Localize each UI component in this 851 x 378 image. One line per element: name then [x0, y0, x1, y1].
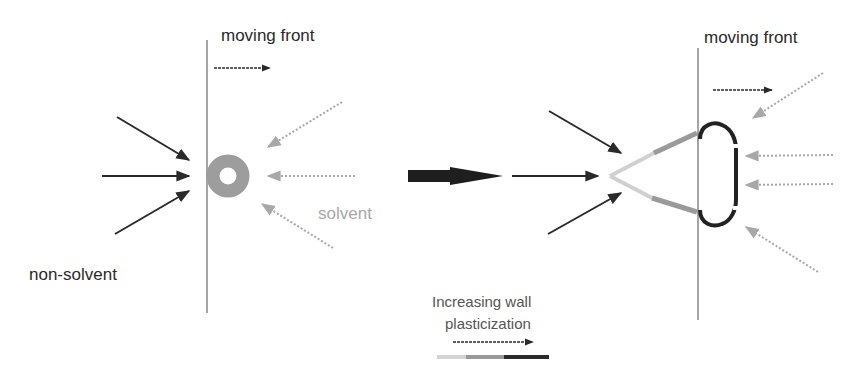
- diagram-canvas: [0, 0, 851, 378]
- nonsolvent-arrow-lower: [115, 191, 189, 234]
- legend-gradient-mid: [466, 355, 504, 359]
- legend: [437, 342, 549, 359]
- solvent-arrow-3-right: [746, 184, 833, 185]
- solvent-arrow-4-right: [746, 227, 818, 272]
- macrovoid-structure: [610, 123, 739, 225]
- solvent-arrow-upper: [268, 102, 342, 147]
- moving-front-label-left: moving front: [221, 27, 315, 44]
- legend-line2: plasticization: [445, 316, 531, 331]
- left-panel: [102, 40, 355, 313]
- solvent-arrow-2-right: [746, 155, 833, 156]
- nonsolvent-arrow-lower-right: [548, 193, 621, 234]
- nonsolvent-label: non-solvent: [29, 266, 117, 283]
- moving-front-label-right: moving front: [704, 29, 798, 46]
- nonsolvent-arrow-upper-right: [549, 111, 621, 153]
- solvent-label: solvent: [318, 205, 372, 222]
- right-panel: [512, 48, 833, 320]
- nonsolvent-arrow-upper: [117, 117, 189, 160]
- legend-gradient-dark: [504, 355, 549, 359]
- nucleus-ring: [213, 161, 243, 191]
- solvent-arrow-1-right: [753, 73, 823, 118]
- transition-arrow: [408, 167, 503, 185]
- legend-line1: Increasing wall: [432, 294, 531, 309]
- legend-gradient-light: [437, 355, 466, 359]
